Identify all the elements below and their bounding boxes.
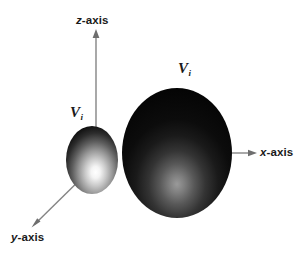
y-axis-label: y-axis (11, 231, 44, 243)
small-lobe-shape (66, 126, 118, 194)
y-axis-label-suffix: -axis (18, 231, 45, 243)
x-axis-label-suffix: -axis (267, 146, 294, 158)
z-axis-line (93, 29, 100, 134)
small-lobe-subscript: i (80, 112, 83, 122)
orbital-diagram-figure: z-axis x-axis y-axis Vi Vi (0, 0, 306, 261)
large-lobe-shape (122, 88, 232, 218)
large-lobe-subscript: i (188, 68, 191, 78)
z-axis-label: z-axis (76, 14, 109, 26)
large-lobe-symbol: V (178, 60, 188, 76)
small-lobe-symbol: V (70, 104, 80, 120)
small-lobe-label: Vi (70, 104, 83, 122)
diagram-canvas (0, 0, 306, 261)
z-axis-label-suffix: -axis (82, 14, 109, 26)
large-lobe-label: Vi (178, 60, 191, 78)
x-axis-label: x-axis (260, 146, 293, 158)
